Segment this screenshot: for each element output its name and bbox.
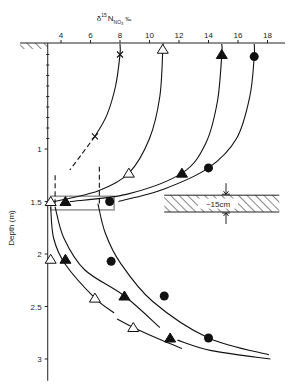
x-tick-label: 6 — [88, 31, 93, 40]
x-tick-label: 16 — [234, 31, 243, 40]
open-triangle-curve-tail — [117, 319, 182, 348]
layer-thickness-label: ~15cm — [206, 200, 231, 209]
x-tick-label: 4 — [59, 31, 64, 40]
filled-triangle-marker — [119, 291, 130, 300]
filled-triangle-marker — [176, 168, 187, 177]
filled-triangle-curve-tail — [178, 340, 271, 359]
filled-circle-marker — [160, 292, 169, 301]
x-tick-label: 18 — [263, 31, 272, 40]
filled-circle-marker — [105, 197, 114, 206]
x-axis-title: δ15NNO3‰ — [97, 12, 132, 26]
filled-circle-curve-upper — [119, 44, 255, 202]
cross-curve-dashed — [70, 136, 95, 170]
x-tick-label: 14 — [204, 31, 213, 40]
y-tick-label: 1 — [37, 145, 42, 154]
y-tick-label: 2.5 — [31, 303, 43, 312]
y-axis-title: Depth (m) — [7, 210, 16, 246]
filled-triangle-marker — [216, 50, 227, 59]
filled-circle-curve-lower — [98, 204, 269, 355]
x-tick-label: 8 — [118, 31, 123, 40]
cross-marker — [92, 133, 98, 139]
x-tick-label: 12 — [175, 31, 184, 40]
ground-surface-hatching — [20, 43, 48, 49]
filled-triangle-curve-upper — [70, 44, 222, 202]
filled-triangle-marker — [165, 333, 176, 342]
arrow-up-icon — [224, 213, 229, 224]
clay-layer-annotation: ~15cm — [164, 183, 279, 224]
ground-hatch — [20, 43, 48, 49]
filled-circle-marker — [204, 163, 213, 172]
filled-circle-marker — [107, 257, 116, 266]
open-triangle-curve-lower — [51, 207, 114, 313]
y-tick-label: 3 — [37, 355, 42, 364]
filled-circle-marker — [204, 334, 213, 343]
arrow-down-icon — [224, 183, 229, 194]
x-tick-label: 10 — [145, 31, 154, 40]
open-triangle-marker — [157, 44, 168, 53]
nitrate-isotope-depth-chart: δ15NNO3‰ 468101214161811.522.53 ~15cm De… — [0, 0, 300, 392]
filled-triangle-curve-lower — [55, 207, 160, 328]
y-tick-label: 1.5 — [31, 198, 43, 207]
cross-curve-solid — [95, 44, 120, 136]
open-triangle-marker — [128, 323, 139, 332]
open-triangle-curve-upper — [54, 44, 163, 202]
y-tick-label: 2 — [37, 250, 42, 259]
open-triangle-marker — [45, 254, 56, 263]
filled-circle-marker — [250, 52, 259, 61]
